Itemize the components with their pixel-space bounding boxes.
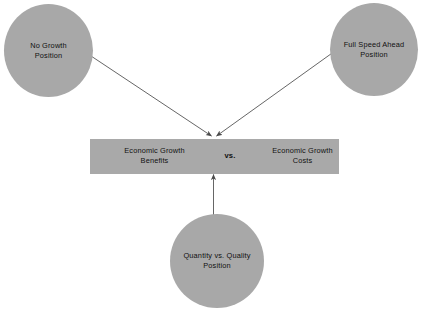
diagram-canvas: No Growth Position Full Speed Ahead Posi… [0, 0, 423, 313]
center-comparison-bar[interactable]: Economic Growth Benefits vs. Economic Gr… [90, 139, 339, 174]
node-quantity-vs-quality-position-label: Quantity vs. Quality Position [177, 251, 256, 271]
node-no-growth-position-label: No Growth Position [24, 41, 73, 61]
center-bar-benefits-label: Economic Growth Benefits [102, 146, 207, 166]
node-quantity-vs-quality-position[interactable]: Quantity vs. Quality Position [170, 214, 264, 308]
center-bar-versus-label: vs. [212, 151, 248, 161]
arrow-no-growth-to-center [88, 54, 212, 136]
node-no-growth-position[interactable]: No Growth Position [4, 4, 93, 97]
node-full-speed-ahead-position[interactable]: Full Speed Ahead Position [330, 3, 418, 96]
arrow-full-speed-to-center [217, 51, 336, 136]
node-full-speed-ahead-position-label: Full Speed Ahead Position [338, 40, 411, 60]
center-bar-costs-label: Economic Growth Costs [250, 146, 355, 166]
